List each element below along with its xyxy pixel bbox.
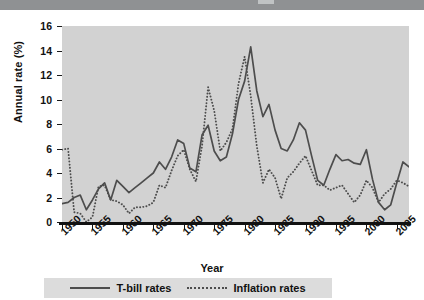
legend-label-inflation: Inflation rates: [233, 282, 305, 294]
series-line-inflation: [62, 57, 409, 222]
legend-label-tbill: T-bill rates: [116, 282, 171, 294]
y-axis-tick-label: 10: [30, 95, 52, 105]
y-axis-tick-label: 0: [30, 217, 52, 227]
y-axis-tick-label: 6: [30, 144, 52, 154]
legend-swatch-solid-icon: [70, 287, 110, 289]
window-title-bar: [0, 0, 424, 10]
y-axis-tick-label: 16: [30, 21, 52, 31]
chart-legend: T-bill rates Inflation rates: [44, 278, 332, 298]
y-axis-tick-label: 2: [30, 193, 52, 203]
legend-item-inflation: Inflation rates: [187, 282, 305, 294]
y-axis-tick-label: 14: [30, 46, 52, 56]
series-canvas: [62, 26, 409, 222]
x-axis-line: [59, 222, 411, 225]
y-axis-tick-label: 12: [30, 70, 52, 80]
legend-swatch-dotted-icon: [187, 287, 227, 289]
chart-figure: Annual rate (%) Year T-bill rates Inflat…: [0, 10, 424, 300]
title-bar-highlight: [258, 0, 274, 4]
legend-item-tbill: T-bill rates: [70, 282, 171, 294]
y-axis-title: Annual rate (%): [12, 17, 24, 147]
x-axis-title: Year: [0, 262, 424, 274]
y-axis-tick-label: 8: [30, 119, 52, 129]
plot-area: [62, 26, 409, 222]
y-axis-tick-label: 4: [30, 168, 52, 178]
series-line-tbill: [62, 47, 409, 210]
